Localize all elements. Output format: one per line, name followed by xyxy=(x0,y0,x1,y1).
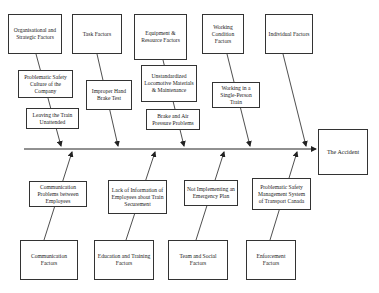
category-team-social: Team and Social Factors xyxy=(168,240,228,280)
fishbone-diagram: Organisational and Strategic Factors Tas… xyxy=(0,0,379,293)
category-organisational-strategic: Organisational and Strategic Factors xyxy=(8,14,62,54)
category-enforcement: Enforcement Factors xyxy=(246,240,296,280)
category-task: Task Factors xyxy=(72,14,122,54)
cause-not-implementing-emergency-plan: Not Implementing an Emergency Plan xyxy=(184,180,238,206)
effect-the-accident: The Accident xyxy=(318,129,368,175)
cause-improper-hand-brake-test: Improper Hand Brake Test xyxy=(86,80,132,110)
category-education-training: Education and Training Factors xyxy=(94,240,154,280)
cause-unstandardized-locomotive: Unstandardized Locomotive Materials & Ma… xyxy=(141,65,197,102)
category-working-condition: Working Condition Factors xyxy=(202,14,244,54)
cause-brake-air-pressure: Brake and Air Pressure Problems xyxy=(146,109,200,130)
category-individual: Individual Factors xyxy=(265,14,313,54)
cause-problematic-safety-culture: Problematic Safety Culture of the Compan… xyxy=(18,70,73,98)
cause-leaving-train-unattended: Leaving the Train Unattended xyxy=(26,108,79,129)
cause-single-person-train: Working in a Single-Person Train xyxy=(212,82,260,108)
cause-problematic-safety-management: Problematic Safety Management System of … xyxy=(252,178,311,210)
category-equipment-resource: Equipment & Resource Factors xyxy=(134,14,187,60)
category-communication: Communication Factors xyxy=(20,240,78,280)
cause-communication-problems: Communication Problems between Employees xyxy=(29,181,87,207)
cause-lack-of-information: Lack of Information of Employees about T… xyxy=(108,180,167,214)
